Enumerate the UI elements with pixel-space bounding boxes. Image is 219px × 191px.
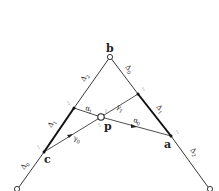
left-end-circle [14, 186, 19, 191]
svg-text:0: 0 [136, 120, 141, 127]
label-a: a [164, 138, 171, 151]
left-side-upper [74, 57, 110, 108]
label-delta1-left: Δ 1 [46, 118, 58, 130]
right-side-bold [138, 94, 171, 136]
right-end-circle [207, 186, 212, 191]
label-b: b [106, 42, 114, 55]
label-alpha1: α 1 [84, 104, 93, 115]
right-side-upper [110, 57, 138, 94]
svg-text:0: 0 [76, 138, 81, 145]
label-gamma0: γ 0 [72, 134, 81, 145]
label-delta0-right: Δ 0 [123, 63, 135, 75]
right-junction-dot [137, 93, 140, 96]
label-gamma1: γ 1 [115, 103, 126, 114]
diagram-canvas: b p a c Δ 2 Δ 1 Δ 0 Δ 0 Δ 1 Δ 2 α 1 γ 1 … [0, 0, 219, 191]
label-delta2-right: Δ 2 [188, 146, 200, 158]
label-delta2-left: Δ 2 [79, 72, 91, 84]
label-delta1-right: Δ 1 [154, 103, 166, 115]
label-delta0-left: Δ 0 [19, 160, 31, 172]
left-junction-dot [73, 107, 76, 110]
right-side-lower [171, 136, 208, 187]
point-b-circle [107, 54, 112, 59]
left-side-bold [44, 108, 74, 152]
label-alpha0: α 0 [132, 116, 141, 127]
label-c: c [44, 153, 51, 166]
label-p: p [104, 120, 112, 133]
